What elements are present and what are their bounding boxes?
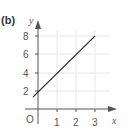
- x-axis-label: x: [111, 115, 117, 126]
- line-chart: 2 4 6 8 1 2 3 O x y: [0, 0, 129, 138]
- data-line: [33, 36, 95, 97]
- x-tick-label: 1: [54, 117, 60, 128]
- x-tick-label: 3: [92, 117, 98, 128]
- grid: [38, 30, 110, 109]
- y-tick-label: 8: [23, 31, 29, 42]
- y-tick-label: 4: [23, 68, 29, 79]
- y-tick-label: 2: [23, 86, 29, 97]
- y-axis-arrow-icon: [35, 20, 41, 29]
- y-axis-label: y: [28, 15, 34, 26]
- x-tick-label: 2: [73, 117, 79, 128]
- origin-label: O: [26, 114, 34, 125]
- y-tick-label: 6: [23, 49, 29, 60]
- x-axis-arrow-icon: [108, 106, 117, 112]
